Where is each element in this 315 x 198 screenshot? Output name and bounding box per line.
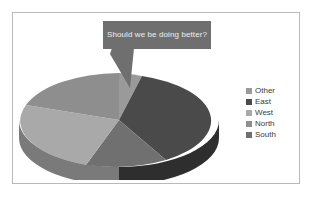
legend-swatch-icon xyxy=(246,132,252,138)
legend-label: East xyxy=(255,96,271,107)
legend-item-east[interactable]: East xyxy=(246,96,298,107)
legend-label: North xyxy=(255,118,275,129)
legend-swatch-icon xyxy=(246,99,252,105)
callout-box[interactable]: Should we be doing better? xyxy=(103,21,211,49)
legend-label: Other xyxy=(255,85,275,96)
legend-item-north[interactable]: North xyxy=(246,118,298,129)
legend-label: West xyxy=(255,107,273,118)
legend-swatch-icon xyxy=(246,110,252,116)
chart-legend: Other East West North South xyxy=(246,85,298,140)
legend-swatch-icon xyxy=(246,88,252,94)
pie-chart[interactable]: Should we be doing better? Other East We… xyxy=(0,0,315,198)
callout-text: Should we be doing better? xyxy=(103,21,211,49)
legend-label: South xyxy=(255,129,276,140)
callout-tail-arrow xyxy=(108,48,148,92)
legend-item-other[interactable]: Other xyxy=(246,85,298,96)
legend-swatch-icon xyxy=(246,121,252,127)
legend-item-south[interactable]: South xyxy=(246,129,298,140)
legend-item-west[interactable]: West xyxy=(246,107,298,118)
